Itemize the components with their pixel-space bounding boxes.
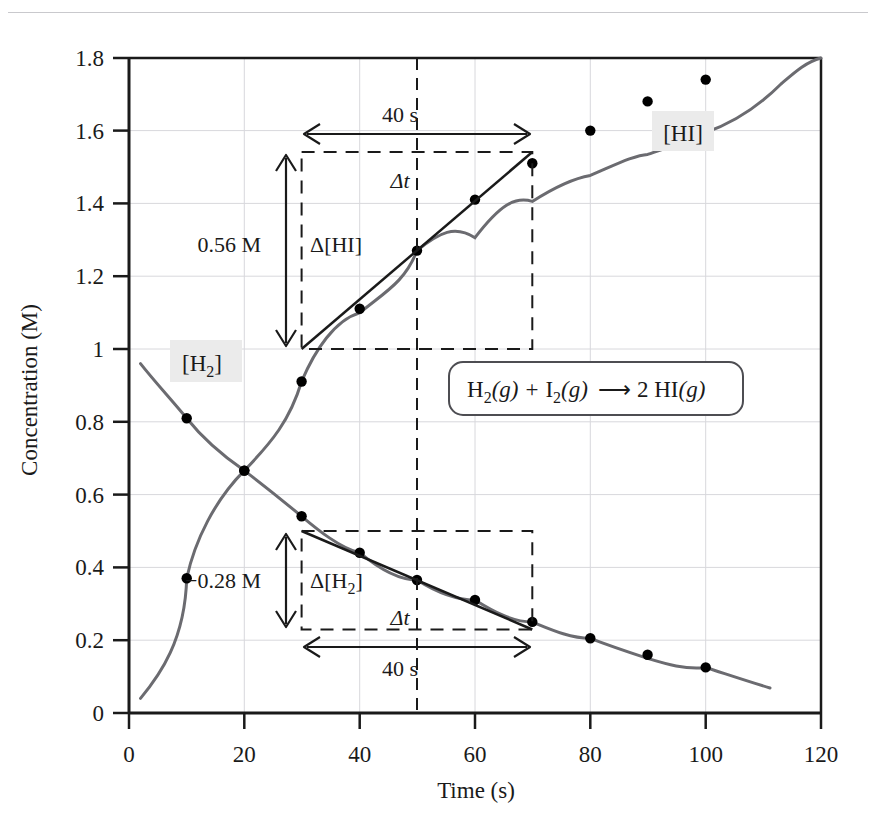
x-axis-ticks <box>129 713 821 729</box>
reaction-arrow-icon: ⟶ <box>598 377 631 402</box>
y-tick-label: 1.4 <box>75 191 104 216</box>
product-state: (g) <box>678 377 705 402</box>
top-divider-rule <box>8 12 868 13</box>
y-tick-label: 0.8 <box>75 410 104 435</box>
y-tick-label: 0.4 <box>75 555 104 580</box>
h2-label-close: ] <box>214 351 222 376</box>
reactant1-subscript: 2 <box>484 389 492 406</box>
h2-delta-c-value-label: −0.28 M <box>185 568 261 593</box>
data-point <box>642 96 652 106</box>
x-axis-title: Time (s) <box>437 778 515 803</box>
x-axis-tick-labels: 0 20 40 60 80 100 120 <box>123 742 838 767</box>
y-axis-ticks <box>113 58 129 713</box>
y-tick-label: 0.6 <box>75 483 104 508</box>
hi-data-markers <box>182 74 711 583</box>
x-tick-label: 100 <box>688 742 723 767</box>
reactant2-subscript: 2 <box>553 389 561 406</box>
data-point <box>585 125 595 135</box>
plus-sign: + <box>525 377 538 402</box>
h2-label-sub: 2 <box>206 363 214 380</box>
h2-label-open: [H <box>182 351 206 376</box>
h2-delta-t-symbol-label: Δt <box>389 605 410 630</box>
reactant2: I <box>545 377 553 402</box>
h2-curve-label: [H2] <box>182 351 222 380</box>
kinetics-figure: 0 0.2 0.4 0.6 0.8 1 1.2 1.4 1.6 1.8 0 20… <box>0 0 873 822</box>
x-tick-label: 60 <box>464 742 487 767</box>
reactant1-state: (g) <box>492 377 519 402</box>
hi-curve-label-group: [HI] <box>652 111 714 151</box>
h2-delta-symbol-sub: 2 <box>347 580 355 597</box>
y-tick-label: 1.2 <box>75 264 104 289</box>
y-axis-tick-labels: 0 0.2 0.4 0.6 0.8 1 1.2 1.4 1.6 1.8 <box>75 46 104 726</box>
data-point <box>585 633 595 643</box>
y-tick-label: 1.8 <box>75 46 104 71</box>
h2-delta-t-value-label: 40 s <box>382 656 418 681</box>
hi-curve-label: [HI] <box>663 121 703 146</box>
y-tick-label: 1.6 <box>75 119 104 144</box>
data-point <box>355 304 365 314</box>
h2-delta-c-arrow <box>276 534 296 627</box>
reactant1: H <box>467 377 484 402</box>
y-tick-label: 0 <box>93 701 105 726</box>
x-tick-label: 0 <box>123 742 135 767</box>
data-point <box>701 74 711 84</box>
h2-delta-symbol-close: ] <box>355 568 362 593</box>
data-point <box>642 650 652 660</box>
x-tick-label: 80 <box>579 742 602 767</box>
hi-delta-t-symbol-label: Δt <box>389 168 410 193</box>
data-point <box>296 376 306 386</box>
data-point <box>701 662 711 672</box>
h2-curve-label-group: [H2] <box>170 340 242 382</box>
hi-delta-c-symbol-label: Δ[HI] <box>310 232 362 257</box>
hi-delta-c-value-label: 0.56 M <box>197 232 261 257</box>
y-tick-label: 0.2 <box>75 628 104 653</box>
reaction-equation-text: H2(g)+I2(g)⟶2 HI(g) <box>467 377 705 406</box>
reactant2-state: (g) <box>561 377 588 402</box>
x-tick-label: 20 <box>233 742 256 767</box>
data-point <box>296 511 306 521</box>
y-axis-title: Concentration (M) <box>17 304 42 476</box>
x-tick-label: 120 <box>804 742 839 767</box>
hi-delta-t-value-label: 40 s <box>382 102 418 127</box>
data-point <box>239 465 249 475</box>
h2-delta-symbol-open: Δ[H <box>310 568 347 593</box>
concentration-vs-time-chart: 0 0.2 0.4 0.6 0.8 1 1.2 1.4 1.6 1.8 0 20… <box>0 0 873 822</box>
y-tick-label: 1 <box>93 337 105 362</box>
product: 2 HI <box>637 377 679 402</box>
x-tick-label: 40 <box>348 742 371 767</box>
data-point <box>182 413 192 423</box>
h2-delta-c-symbol-label: Δ[H2] <box>310 568 363 597</box>
hi-tangent-construction: 40 s Δt 0.56 M Δ[HI] <box>197 102 532 349</box>
hi-delta-c-arrow <box>276 155 296 346</box>
reaction-equation-box: H2(g)+I2(g)⟶2 HI(g) <box>449 362 743 415</box>
